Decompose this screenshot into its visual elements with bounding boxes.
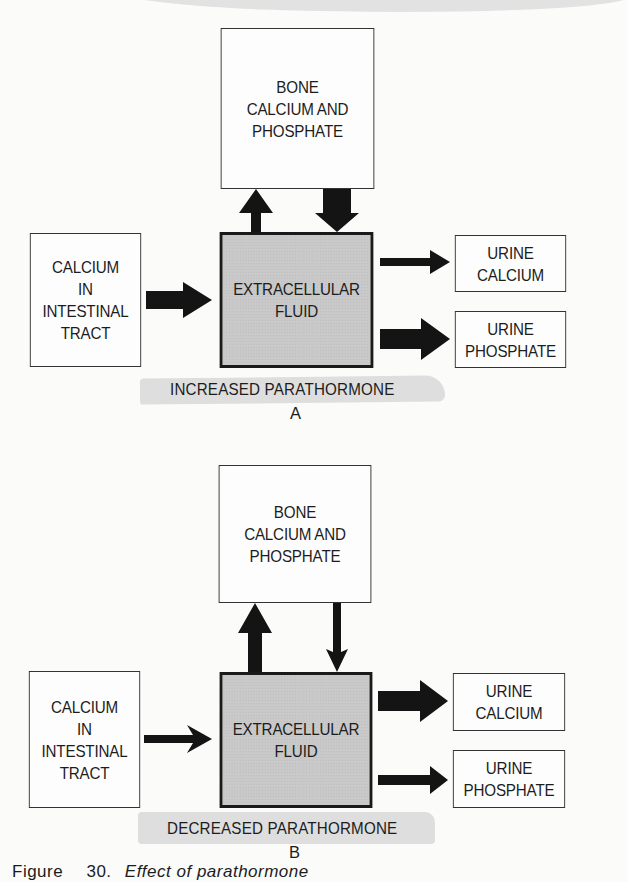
figure-caption-text: Effect of parathormone xyxy=(125,862,309,881)
panel-letter: B xyxy=(289,843,300,862)
arrow-ecf-to-urine-calcium xyxy=(378,680,448,722)
arrow-ecf-to-bone xyxy=(238,603,272,672)
urine-calcium-box: URINE CALCIUM xyxy=(453,673,565,731)
figure-caption: Figure 30. Effect of parathormone xyxy=(12,862,309,882)
arrow-bone-to-ecf xyxy=(326,603,348,672)
condition-label: DECREASED PARATHORMONE xyxy=(167,819,397,838)
arrow-ecf-to-urine-phosphate xyxy=(378,766,448,794)
extracellular-fluid-box: EXTRACELLULAR FLUID xyxy=(220,672,373,808)
bone-calcium-phosphate-box: BONE CALCIUM AND PHOSPHATE xyxy=(219,465,372,603)
arrow-intestine-to-ecf xyxy=(144,725,212,753)
urine-phosphate-box: URINE PHOSPHATE xyxy=(453,750,565,808)
figure-caption-prefix: Figure xyxy=(12,862,63,881)
figure-caption-number: 30. xyxy=(86,862,111,881)
calcium-intestinal-tract-box: CALCIUM IN INTESTINAL TRACT xyxy=(29,671,140,808)
